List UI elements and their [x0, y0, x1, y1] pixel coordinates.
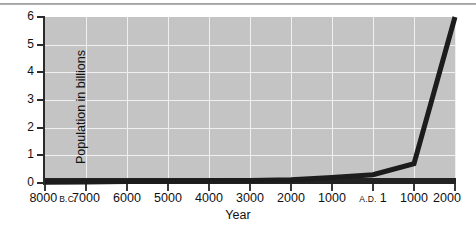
population-growth-chart: 0123456 8000B.C.700060005000400030002000…: [0, 0, 476, 228]
population-line: [45, 17, 455, 182]
series-layer: [0, 0, 476, 228]
